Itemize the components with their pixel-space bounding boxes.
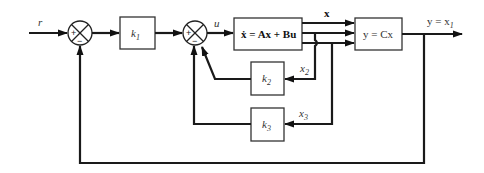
summing-junction-1: + −: [68, 21, 92, 46]
plus-sign: +: [186, 28, 191, 38]
block-diagram: r + − k1 + − u ẋ = Ax + Bu x y = Cx: [0, 0, 484, 173]
x2-label: x2: [299, 62, 309, 77]
k3-block: k3: [251, 108, 284, 141]
minus-sign: −: [77, 36, 82, 46]
summing-junction-2: + −: [183, 21, 207, 46]
k1-block: k1: [120, 17, 155, 49]
state-equation-label: ẋ = Ax + Bu: [241, 28, 296, 40]
k2-to-sum2-path: [202, 47, 251, 79]
state-vector-label: x: [324, 7, 330, 19]
minus-sign: −: [192, 36, 197, 46]
output-label: y = x1: [427, 15, 454, 30]
state-equation-block: ẋ = Ax + Bu: [234, 18, 302, 50]
input-label: r: [38, 16, 43, 28]
control-label: u: [214, 17, 220, 29]
k2-block: k2: [251, 62, 284, 95]
output-equation-label: y = Cx: [363, 28, 394, 40]
output-equation-block: y = Cx: [355, 18, 402, 50]
output-feedback-path: [80, 34, 424, 163]
k3-to-sum2-path: [194, 46, 251, 124]
plus-sign: +: [71, 28, 76, 38]
x3-label: x3: [298, 107, 308, 122]
x3-feedback-path: [285, 43, 332, 124]
